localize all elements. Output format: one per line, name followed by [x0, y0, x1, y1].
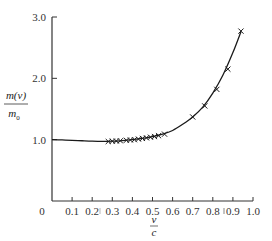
axes — [52, 17, 253, 201]
svg-text:m0: m0 — [8, 107, 20, 122]
x-tick-label: 0.6 — [166, 205, 180, 217]
x-tick-label: 0.1 — [65, 205, 79, 217]
x-marker-icon — [190, 114, 195, 119]
y-axis-ticks: 1.02.03.0 — [32, 11, 57, 146]
y-label-numerator: m(v) — [6, 89, 26, 102]
fitted-curve-line — [52, 32, 241, 142]
y-tick-label: 1.0 — [32, 134, 46, 146]
x-tick-label: 0.2 — [85, 205, 99, 217]
x-origin-label: 0 — [39, 205, 45, 217]
x-tick-label: 0.8 — [206, 205, 220, 217]
measurement-markers — [106, 29, 244, 145]
chart: 0.10.20.30.40.50.60.70.80.91.0 1.02.03.0… — [0, 0, 272, 241]
x-tick-label: 0.7 — [186, 205, 200, 217]
x-axis-ticks: 0.10.20.30.40.50.60.70.80.91.0 — [65, 197, 260, 217]
y-label-subscript: 0 — [16, 114, 20, 122]
x-label-numerator: v — [152, 213, 157, 225]
x-tick-label: 0.3 — [105, 205, 119, 217]
y-tick-label: 2.0 — [32, 72, 46, 84]
x-tick-label: 1.0 — [246, 205, 260, 217]
x-label-denominator: c — [152, 226, 157, 238]
x-tick-label: 0.9 — [226, 205, 240, 217]
y-axis-label: m(v) m0 — [4, 89, 28, 122]
y-tick-label: 3.0 — [32, 11, 46, 23]
x-tick-label: 0.4 — [126, 205, 140, 217]
y-label-denominator: m — [8, 107, 16, 119]
